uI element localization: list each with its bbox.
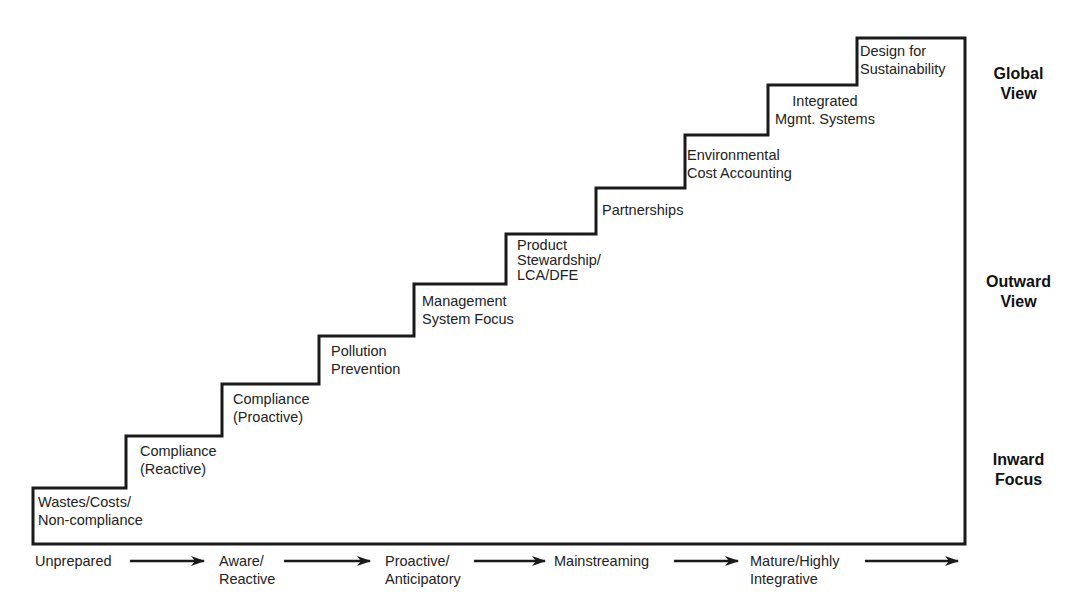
stage-label-line: Anticipatory [385,570,461,588]
stage-label-mature-highly-integrative: Mature/Highly Integrative [750,552,839,588]
step-label-line: Mgmt. Systems [775,110,875,128]
step-label-partnerships: Partnerships [602,201,683,219]
step-label-line: Compliance [233,390,310,408]
step-label-line: (Reactive) [140,460,217,478]
step-label-wastes-costs: Wastes/Costs/ Non-compliance [38,493,143,529]
stage-label-line: Integrative [750,570,839,588]
step-label-line: Non-compliance [38,511,143,529]
step-label-line: Design for [860,42,945,60]
step-label-line: Pollution [331,342,400,360]
step-label-design-for-sustainability: Design for Sustainability [860,42,945,78]
stage-label-line: Proactive/ [385,552,461,570]
side-label-inward-focus: Inward Focus [968,450,1069,490]
step-label-line: Cost Accounting [687,164,792,182]
step-label-line: Integrated [775,92,875,110]
step-label-line: (Proactive) [233,408,310,426]
step-label-integrated-mgmt-systems: Integrated Mgmt. Systems [775,92,875,128]
step-label-compliance-proactive: Compliance (Proactive) [233,390,310,426]
stage-label-line: Reactive [219,570,275,588]
step-label-line: Wastes/Costs/ [38,493,143,511]
stage-label-aware-reactive: Aware/ Reactive [219,552,275,588]
step-label-line: Environmental [687,146,792,164]
step-label-line: Partnerships [602,201,683,219]
step-label-environmental-cost-accounting: Environmental Cost Accounting [687,146,792,182]
stage-label-unprepared: Unprepared [35,552,112,570]
step-label-line: Sustainability [860,60,945,78]
step-label-pollution-prevention: Pollution Prevention [331,342,400,378]
step-label-line: LCA/DFE [517,268,601,283]
side-label-line: Focus [968,470,1069,490]
side-label-outward-view: Outward View [968,272,1069,312]
step-label-line: Prevention [331,360,400,378]
stage-label-line: Mature/Highly [750,552,839,570]
stage-label-line: Unprepared [35,552,112,570]
step-label-product-stewardship: Product Stewardship/ LCA/DFE [517,238,601,283]
step-label-line: Product [517,238,601,253]
side-label-line: View [968,84,1069,104]
step-label-line: System Focus [422,310,514,328]
side-label-line: Outward [968,272,1069,292]
stage-label-line: Mainstreaming [554,552,649,570]
side-label-line: View [968,292,1069,312]
step-label-compliance-reactive: Compliance (Reactive) [140,442,217,478]
stage-label-mainstreaming: Mainstreaming [554,552,649,570]
side-label-line: Global [968,64,1069,84]
environmental-maturity-staircase-diagram: Wastes/Costs/ Non-compliance Compliance … [0,0,1069,609]
step-label-line: Stewardship/ [517,253,601,268]
side-label-line: Inward [968,450,1069,470]
step-label-management-system-focus: Management System Focus [422,292,514,328]
stage-label-proactive-anticipatory: Proactive/ Anticipatory [385,552,461,588]
staircase-outline [0,0,1069,609]
side-label-global-view: Global View [968,64,1069,104]
step-label-line: Management [422,292,514,310]
step-label-line: Compliance [140,442,217,460]
stage-label-line: Aware/ [219,552,275,570]
